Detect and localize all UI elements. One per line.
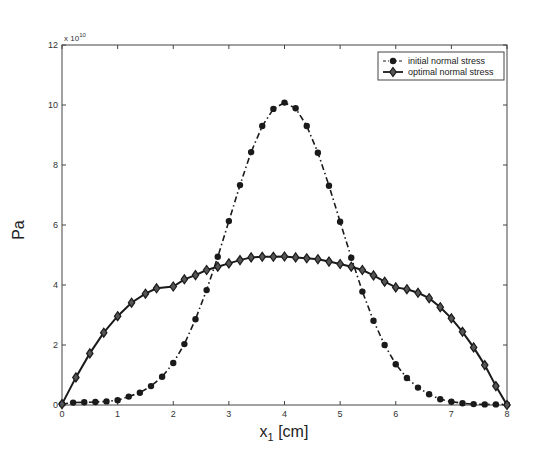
y-tick-label: 8 bbox=[53, 160, 58, 170]
y-tick-label: 10 bbox=[48, 100, 58, 110]
y-tick-label: 4 bbox=[53, 280, 58, 290]
x-tick-label: 1 bbox=[115, 409, 120, 419]
y-multiplier-label: x 1010 bbox=[64, 32, 86, 43]
x-tick-label: 5 bbox=[338, 409, 343, 419]
x-tick-label: 7 bbox=[449, 409, 454, 419]
series-optimal-normal-stress bbox=[59, 252, 510, 410]
axes-box bbox=[62, 45, 507, 405]
x-tick-label: 4 bbox=[282, 409, 287, 419]
y-tick-label: 0 bbox=[53, 400, 58, 410]
y-axis-label: Pa bbox=[10, 220, 27, 240]
legend-label: initial normal stress bbox=[408, 56, 486, 66]
x-axis-label: x1 [cm] bbox=[260, 423, 309, 443]
legend: initial normal stressoptimal normal stre… bbox=[378, 52, 504, 80]
x-tick-label: 3 bbox=[226, 409, 231, 419]
y-tick-label: 6 bbox=[53, 220, 58, 230]
x-tick-label: 0 bbox=[59, 409, 64, 419]
line-chart: 012345678024681012 x 1010 Pa x1 [cm] ini… bbox=[0, 0, 536, 468]
x-tick-label: 6 bbox=[393, 409, 398, 419]
x-tick-label: 2 bbox=[171, 409, 176, 419]
legend-label: optimal normal stress bbox=[408, 67, 494, 77]
axis-ticks: 012345678024681012 bbox=[48, 40, 510, 419]
y-tick-label: 12 bbox=[48, 40, 58, 50]
data-series bbox=[59, 99, 510, 409]
y-tick-label: 2 bbox=[53, 340, 58, 350]
plot-area bbox=[62, 45, 507, 405]
